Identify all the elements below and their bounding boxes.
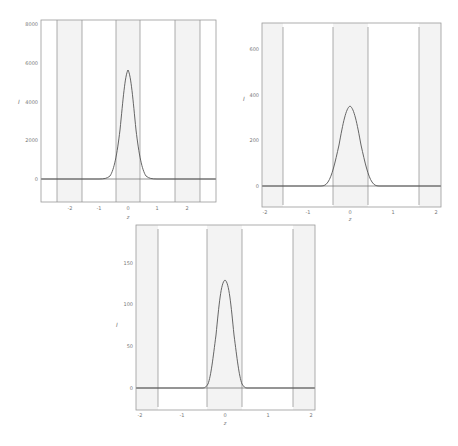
- plot-area: [262, 23, 441, 207]
- x-tick-label: 2: [434, 209, 437, 215]
- y-axis: 8000 6000 4000 2000 0: [25, 21, 38, 182]
- y-tick-label: 200: [249, 137, 259, 143]
- y-axis: 600 400 200 0: [249, 46, 259, 189]
- y-tick-label: 0: [130, 385, 133, 391]
- y-tick-label: 4000: [25, 99, 38, 105]
- shaded-band: [262, 23, 283, 207]
- y-axis-label: I: [243, 95, 245, 102]
- shaded-band: [175, 20, 200, 202]
- y-axis: 150 100 50 0: [123, 260, 133, 391]
- x-tick-label: -1: [97, 205, 102, 211]
- plot-area: [136, 225, 315, 410]
- y-tick-label: 400: [249, 92, 259, 98]
- plot-top-left: 8000 6000 4000 2000 0 I -2 -1 0 1 2 z: [0, 0, 230, 222]
- x-tick-label: 1: [155, 205, 158, 211]
- x-tick-label: 1: [266, 412, 269, 418]
- shaded-band: [333, 23, 368, 207]
- plot-top-right: 600 400 200 0 I -2 -1 0 1 2 z: [230, 0, 458, 222]
- y-tick-label: 0: [256, 183, 259, 189]
- y-tick-label: 50: [127, 343, 133, 349]
- shaded-band: [136, 225, 158, 410]
- x-tick-label: 0: [348, 209, 351, 215]
- y-tick-label: 100: [123, 301, 133, 307]
- x-tick-label: -2: [263, 209, 268, 215]
- x-tick-label: -2: [138, 412, 143, 418]
- x-axis: -2 -1 0 1 2: [68, 205, 189, 211]
- plot-bottom-center: 150 100 50 0 I -2 -1 0 1 2 z: [110, 220, 350, 426]
- shaded-band: [207, 225, 242, 410]
- y-tick-label: 8000: [25, 21, 38, 27]
- x-tick-label: -2: [68, 205, 73, 211]
- x-axis: -2 -1 0 1 2: [263, 209, 438, 215]
- y-tick-label: 600: [249, 46, 259, 52]
- x-axis: -2 -1 0 1 2: [138, 412, 313, 418]
- x-tick-label: 0: [223, 412, 226, 418]
- y-tick-label: 6000: [25, 60, 38, 66]
- shaded-band: [293, 225, 315, 410]
- x-tick-label: 0: [126, 205, 129, 211]
- x-axis-label: z: [223, 420, 227, 426]
- x-tick-label: 2: [309, 412, 312, 418]
- plot-area: [41, 20, 216, 202]
- y-tick-label: 150: [123, 260, 133, 266]
- shaded-band: [116, 20, 140, 202]
- x-tick-label: -1: [306, 209, 311, 215]
- y-tick-label: 0: [35, 176, 38, 182]
- x-tick-label: 1: [391, 209, 394, 215]
- y-axis-label: I: [116, 321, 118, 328]
- y-axis-label: I: [18, 98, 20, 105]
- y-tick-label: 2000: [25, 137, 38, 143]
- shaded-band: [57, 20, 82, 202]
- figure-caption-illegible: [8, 431, 448, 437]
- x-tick-label: -1: [180, 412, 185, 418]
- x-tick-label: 2: [185, 205, 188, 211]
- shaded-band: [419, 23, 441, 207]
